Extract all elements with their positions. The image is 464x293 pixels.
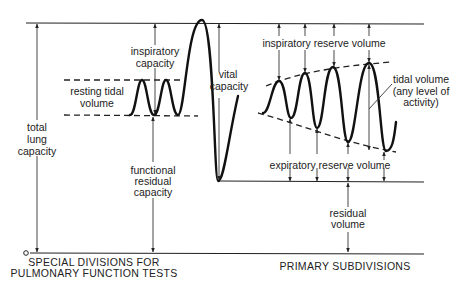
label-activity: activity) (403, 96, 439, 108)
label-expiratory-reserve-volume: expiratory reserve volume (270, 159, 391, 171)
tidal-volume-leader (369, 84, 392, 109)
caption-primary-subdivisions: PRIMARY SUBDIVISIONS (279, 260, 410, 272)
zero-marker (24, 251, 29, 256)
label-inspiratory-capacity: capacity (136, 57, 175, 69)
residual-volume-line (218, 181, 424, 182)
caption-pulmonary-function-tests: PULMONARY FUNCTION TESTS (10, 267, 177, 279)
label-frc-capacity: capacity (134, 186, 173, 198)
label-resting-volume: volume (80, 97, 114, 109)
label-residual-volume: volume (331, 218, 365, 230)
label-tidal-volume: tidal volume (393, 73, 449, 85)
spirometry-curve-right (263, 63, 396, 151)
lung-volumes-diagram: total lung capacity inspiratory capacity… (0, 0, 464, 293)
label-inspiratory-reserve-volume: inspiratory reserve volume (262, 37, 385, 49)
baseline-zero (30, 253, 424, 254)
label-resting-tidal: resting tidal (70, 85, 124, 97)
label-inspiratory: inspiratory (131, 45, 180, 57)
label-total: total (27, 121, 47, 133)
top-line-total-capacity (26, 23, 424, 24)
label-vital: vital (219, 68, 238, 80)
label-lung: lung (27, 133, 47, 145)
label-capacity: capacity (18, 145, 57, 157)
expiratory-envelope-dash (258, 113, 396, 152)
label-vital-capacity: capacity (210, 80, 249, 92)
